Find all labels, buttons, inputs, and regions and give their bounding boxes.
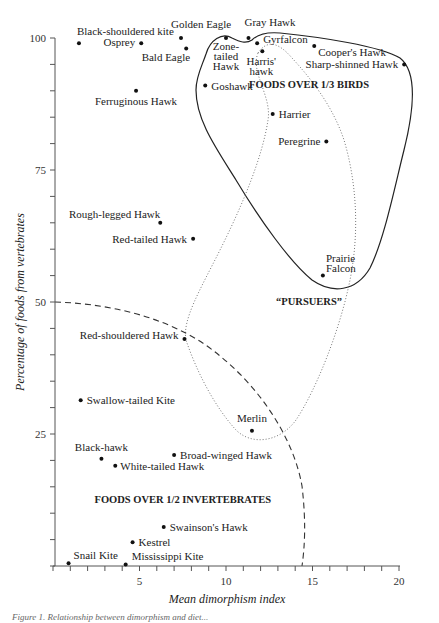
point-label: Snail Kite xyxy=(74,549,118,561)
point-marker-icon xyxy=(246,36,250,40)
data-point: Sharp-shinned Hawk xyxy=(306,58,407,70)
point-marker-icon xyxy=(321,274,325,278)
data-point: Goshawk xyxy=(203,80,253,92)
data-point: Ferruginous Hawk xyxy=(95,89,178,107)
point-label: Merlin xyxy=(237,412,267,424)
data-point: Snail Kite xyxy=(67,549,118,565)
data-points: Black-shouldered kiteOspreyGolden EagleB… xyxy=(67,16,407,566)
data-point: Broad-winged Hawk xyxy=(172,449,272,461)
x-axis-ticks: 5101520 xyxy=(53,566,405,587)
point-label: Swallow-tailed Kite xyxy=(87,394,175,406)
point-label: Black-hawk xyxy=(75,441,129,453)
point-marker-icon xyxy=(260,49,264,53)
point-label: Kestrel xyxy=(139,536,171,548)
point-marker-icon xyxy=(324,139,328,143)
point-label: PrairieFalcon xyxy=(326,252,356,274)
data-point: Harris'hawk xyxy=(247,49,276,77)
data-point: Zone-tailedHawk xyxy=(213,36,240,72)
y-tick-label: 75 xyxy=(35,164,47,176)
point-marker-icon xyxy=(99,457,103,461)
point-label: Harrier xyxy=(279,108,311,120)
point-label: Mississippi Kite xyxy=(132,550,204,562)
point-marker-icon xyxy=(77,41,81,45)
point-marker-icon xyxy=(139,41,143,45)
point-marker-icon xyxy=(312,44,316,48)
data-point: Kestrel xyxy=(131,536,171,548)
point-label: Broad-winged Hawk xyxy=(180,449,272,461)
point-marker-icon xyxy=(182,337,186,341)
data-point: Osprey xyxy=(103,36,143,48)
point-marker-icon xyxy=(255,41,259,45)
data-point: Bald Eagle xyxy=(142,47,191,63)
y-axis-ticks: 255075100 xyxy=(30,32,56,566)
point-marker-icon xyxy=(124,562,128,566)
point-label: Peregrine xyxy=(278,135,320,147)
data-point: Black-hawk xyxy=(75,441,129,461)
data-point: White-tailed Hawk xyxy=(113,460,204,472)
point-marker-icon xyxy=(179,36,183,40)
point-label: Goshawk xyxy=(211,80,253,92)
y-tick-label: 100 xyxy=(30,32,47,44)
data-point: Harrier xyxy=(271,108,311,120)
point-label: Zone-tailedHawk xyxy=(213,40,240,72)
point-marker-icon xyxy=(134,89,138,93)
point-marker-icon xyxy=(113,464,117,468)
x-tick-label: 15 xyxy=(307,575,319,587)
point-marker-icon xyxy=(158,221,162,225)
point-label: Harris'hawk xyxy=(247,55,276,77)
point-label: Red-shouldered Hawk xyxy=(80,329,179,341)
point-marker-icon xyxy=(250,429,254,433)
data-point: Red-tailed Hawk xyxy=(112,233,195,245)
x-axis-title: Mean dimorphism index xyxy=(168,592,286,606)
x-tick-label: 10 xyxy=(221,575,233,587)
data-point: Gyrfalcon xyxy=(255,33,308,45)
y-axis-title: Percentage of foods from vertebrates xyxy=(13,213,27,392)
point-marker-icon xyxy=(191,237,195,241)
point-label: Swainson's Hawk xyxy=(170,521,249,533)
point-marker-icon xyxy=(67,561,71,565)
point-label: Rough-legged Hawk xyxy=(69,208,161,220)
point-marker-icon xyxy=(131,540,135,544)
point-marker-icon xyxy=(203,84,207,88)
point-marker-icon xyxy=(402,62,406,66)
figure-caption: Figure 1. Relationship between dimorphis… xyxy=(12,612,208,622)
region-pursuers-outline xyxy=(185,44,355,439)
point-label: Golden Eagle xyxy=(171,18,231,30)
region-label: FOODS OVER 1/2 INVERTEBRATES xyxy=(94,494,271,505)
data-point: Merlin xyxy=(237,412,267,433)
point-marker-icon xyxy=(162,525,166,529)
point-label: Bald Eagle xyxy=(142,51,191,63)
data-point: Swallow-tailed Kite xyxy=(79,394,175,406)
data-point: Rough-legged Hawk xyxy=(69,208,162,225)
x-tick-label: 20 xyxy=(394,575,406,587)
data-point: Red-shouldered Hawk xyxy=(80,329,187,341)
data-point: Cooper's Hawk xyxy=(312,44,386,58)
region-labels: FOODS OVER 1/3 BIRDS“PURSUERS”FOODS OVER… xyxy=(94,79,369,504)
data-point: Swainson's Hawk xyxy=(162,521,249,533)
region-label: “PURSUERS” xyxy=(276,296,342,307)
point-label: Gray Hawk xyxy=(244,16,296,28)
point-label: Ferruginous Hawk xyxy=(95,95,178,107)
scatter-chart: 255075100 5101520 Mean dimorphism index … xyxy=(0,0,439,623)
point-label: Osprey xyxy=(103,36,135,48)
data-point: PrairieFalcon xyxy=(321,252,356,278)
data-point: Mississippi Kite xyxy=(124,550,204,566)
point-label: White-tailed Hawk xyxy=(120,460,204,472)
data-point: Peregrine xyxy=(278,135,328,147)
point-marker-icon xyxy=(79,398,83,402)
point-label: Red-tailed Hawk xyxy=(112,233,187,245)
point-marker-icon xyxy=(172,453,176,457)
point-marker-icon xyxy=(271,112,275,116)
x-tick-label: 5 xyxy=(137,575,143,587)
point-label: Cooper's Hawk xyxy=(318,46,386,58)
region-label: FOODS OVER 1/3 BIRDS xyxy=(249,79,369,90)
point-label: Sharp-shinned Hawk xyxy=(306,58,399,70)
point-label: Gyrfalcon xyxy=(263,33,308,45)
y-tick-label: 25 xyxy=(35,428,47,440)
y-tick-label: 50 xyxy=(35,296,47,308)
